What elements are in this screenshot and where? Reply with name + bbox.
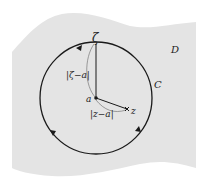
label-c: C <box>154 79 162 90</box>
label-d: D <box>170 44 179 55</box>
label-a: a <box>86 94 91 104</box>
label-radius: |ζ−a| <box>66 70 90 81</box>
cauchy-integral-diagram: ζ D C a z |ζ−a| |z−a| <box>0 0 209 182</box>
center-point <box>94 96 98 100</box>
label-distance: |z−a| <box>90 109 114 120</box>
label-z: z <box>130 106 136 116</box>
